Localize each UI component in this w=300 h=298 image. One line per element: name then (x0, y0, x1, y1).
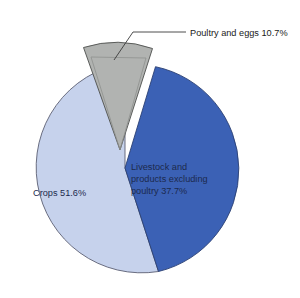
slice-label-livestock-line1: Livestock and (131, 162, 187, 172)
slice-label-livestock-line2: products excluding (131, 174, 208, 184)
slice-label-poultry: Poultry and eggs 10.7% (190, 28, 288, 38)
slice-label-crops: Crops 51.6% (33, 188, 86, 198)
pie-chart: Poultry and eggs 10.7% Crops 51.6% Lives… (0, 0, 300, 298)
slice-label-livestock-line3: poultry 37.7% (131, 186, 187, 196)
pie-chart-canvas: Poultry and eggs 10.7% Crops 51.6% Lives… (0, 0, 300, 298)
